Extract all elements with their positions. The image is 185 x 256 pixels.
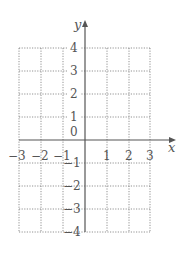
y-tick-label: 1 [70, 110, 78, 124]
x-tick-label: 1 [103, 149, 111, 163]
y-tick-label: −4 [63, 225, 81, 239]
y-tick-label: −2 [63, 179, 81, 193]
x-tick-label: 2 [125, 149, 133, 163]
y-arrow-icon [82, 20, 88, 27]
x-tick-label: −3 [8, 149, 26, 163]
x-tick-label: 3 [146, 149, 154, 163]
y-tick-label: 3 [70, 64, 78, 78]
y-tick-label: −1 [63, 156, 81, 170]
y-tick-label: −3 [63, 202, 81, 216]
x-axis-label: x [168, 140, 176, 155]
axes [19, 24, 172, 232]
coordinate-plane: x y 0 −3 −2 −1 1 2 3 4 3 2 1 −1 −2 −3 −4 [0, 0, 185, 256]
x-tick-label: −2 [31, 149, 49, 163]
y-tick-label: 4 [70, 41, 78, 55]
y-tick-label: 2 [70, 87, 78, 101]
y-axis-label: y [73, 17, 82, 32]
origin-label: 0 [70, 125, 78, 139]
